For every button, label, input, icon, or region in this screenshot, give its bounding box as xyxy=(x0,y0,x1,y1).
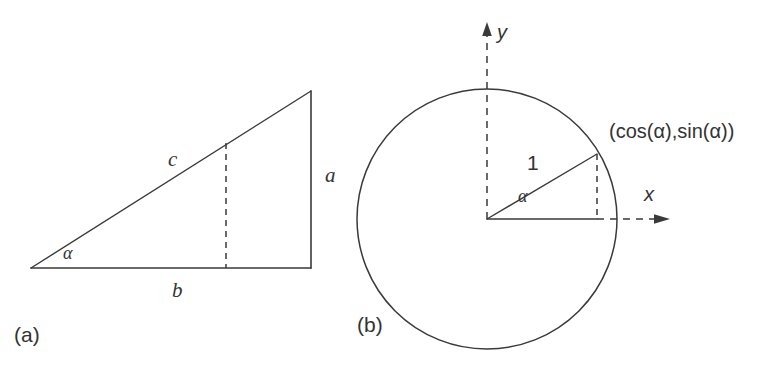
label-point-cos-sin: (cos(α),sin(α)) xyxy=(609,121,734,141)
panel-b-unit-circle xyxy=(357,22,670,349)
label-radius-one: 1 xyxy=(527,152,539,173)
y-axis-arrowhead-icon xyxy=(482,22,492,36)
triangle-side-c xyxy=(31,91,311,268)
unit-radius-line xyxy=(487,154,597,219)
panel-caption-a: (a) xyxy=(14,324,40,345)
label-angle-alpha-circle: α xyxy=(518,187,527,205)
figure-container: c a b α (a) 1 α x y (cos(α),sin(α)) (b) xyxy=(0,0,761,372)
label-x-axis: x xyxy=(644,184,654,204)
label-side-a: a xyxy=(325,165,336,186)
panel-caption-b: (b) xyxy=(357,314,383,335)
panel-a-triangle xyxy=(31,91,311,268)
label-hypotenuse-c: c xyxy=(168,149,177,170)
label-side-b: b xyxy=(172,280,183,301)
label-angle-alpha-triangle: α xyxy=(63,244,72,262)
label-y-axis: y xyxy=(497,22,507,42)
x-axis-arrowhead-icon xyxy=(654,214,670,224)
